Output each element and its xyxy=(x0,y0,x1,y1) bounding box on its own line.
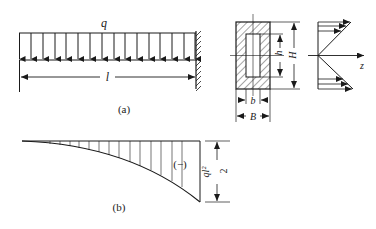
upper-stress-arrows xyxy=(318,22,350,31)
length-dimension: l xyxy=(20,60,196,92)
outer-height-label: H xyxy=(287,51,298,60)
moment-sign-label: (−) xyxy=(173,158,187,171)
moment-denominator-label: 2 xyxy=(218,169,229,174)
length-label: l xyxy=(106,70,110,84)
inner-width-label: b xyxy=(251,95,256,106)
moment-parabola xyxy=(22,141,200,202)
moment-diagram-figure: (−) ql² 2 (b) xyxy=(22,141,230,214)
outer-width-label: B xyxy=(250,111,256,122)
diagram-canvas: q l (a) xyxy=(0,0,376,229)
stress-upper-diagonal xyxy=(318,22,351,56)
caption-a: (a) xyxy=(118,103,131,116)
cantilever-beam-figure: q l (a) xyxy=(19,16,201,116)
lower-stress-arrows xyxy=(318,79,352,89)
load-label: q xyxy=(101,16,107,30)
fixed-wall-support xyxy=(196,31,201,91)
cross-section-figure: h H b B xyxy=(230,14,300,122)
moment-magnitude-dimension: ql² 2 xyxy=(200,141,230,202)
z-axis-label: z xyxy=(359,60,364,71)
moment-numerator-label: ql² xyxy=(200,166,211,178)
caption-b: (b) xyxy=(113,201,126,214)
distributed-load-arrows xyxy=(20,33,196,59)
stress-distribution-figure: z xyxy=(308,22,364,89)
moment-hatching xyxy=(50,141,182,187)
inner-height-label: h xyxy=(273,51,284,56)
